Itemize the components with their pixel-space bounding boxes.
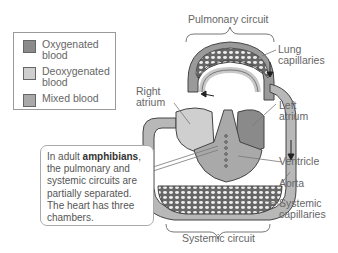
oxygenated-swatch [23,40,36,53]
pulmonary-brace [186,27,274,42]
ventricle-label: Ventricle [279,156,319,167]
lung-capillaries-leader [262,50,276,56]
legend-label: Mixed blood [42,93,99,104]
legend-label-cont: blood [42,76,68,88]
systemic-circuit-label: Systemic circuit [182,233,255,244]
callout-text: In adult [47,151,83,162]
lung-capillaries-label: Lungcapillaries [278,44,325,66]
aorta-label: Aorta [279,178,304,189]
label-line: capillaries [278,54,325,66]
callout-bold: amphibians [83,151,139,162]
systemic-capillaries-label: Systemiccapillaries [279,198,326,220]
pulmonary-circuit-label: Pulmonary circuit [188,14,269,25]
amphibian-callout: In adult amphibians, the pulmonary and s… [40,145,154,226]
legend-item-oxygenated: Oxygenatedblood [23,39,99,61]
right-atrium-label: Rightatrium [136,86,165,108]
heart [176,108,264,182]
label-line: atrium [279,110,308,122]
mixed-swatch [23,94,36,107]
legend-label-cont: blood [42,49,68,61]
legend-item-deoxygenated: Deoxygenatedblood [23,66,110,88]
label-line: atrium [136,96,165,108]
left-atrium-label: Leftatrium [279,100,308,122]
legend-item-mixed: Mixed blood [23,93,99,107]
deoxygenated-swatch [23,67,36,80]
label-line: capillaries [279,208,326,220]
legend: Oxygenatedblood Deoxygenatedblood Mixed … [13,32,116,110]
